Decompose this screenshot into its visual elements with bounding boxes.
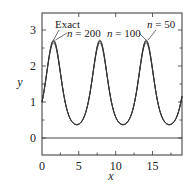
ytick-label: 1 [30, 95, 36, 109]
xtick-label: 5 [76, 159, 82, 173]
series-line [42, 41, 182, 124]
series-curves [42, 40, 182, 125]
ytick-label: 0 [30, 131, 36, 145]
ytick-label: 2 [30, 59, 36, 73]
annotation-n50: n = 50 [147, 18, 176, 30]
x-axis-label: x [107, 169, 114, 183]
chart: 0 5 10 15 0 1 2 3 x y Exact n = 200 n = … [0, 0, 186, 187]
annotation-n100: n = 100 [107, 27, 141, 39]
y-axis-label: y [16, 75, 23, 89]
xtick-label: 15 [147, 159, 159, 173]
series-line [42, 43, 182, 125]
series-line [42, 40, 182, 125]
annotation-n200: n = 200 [67, 27, 101, 39]
xtick-label: 0 [39, 159, 45, 173]
series-line [42, 41, 182, 125]
ytick-label: 3 [30, 23, 36, 37]
